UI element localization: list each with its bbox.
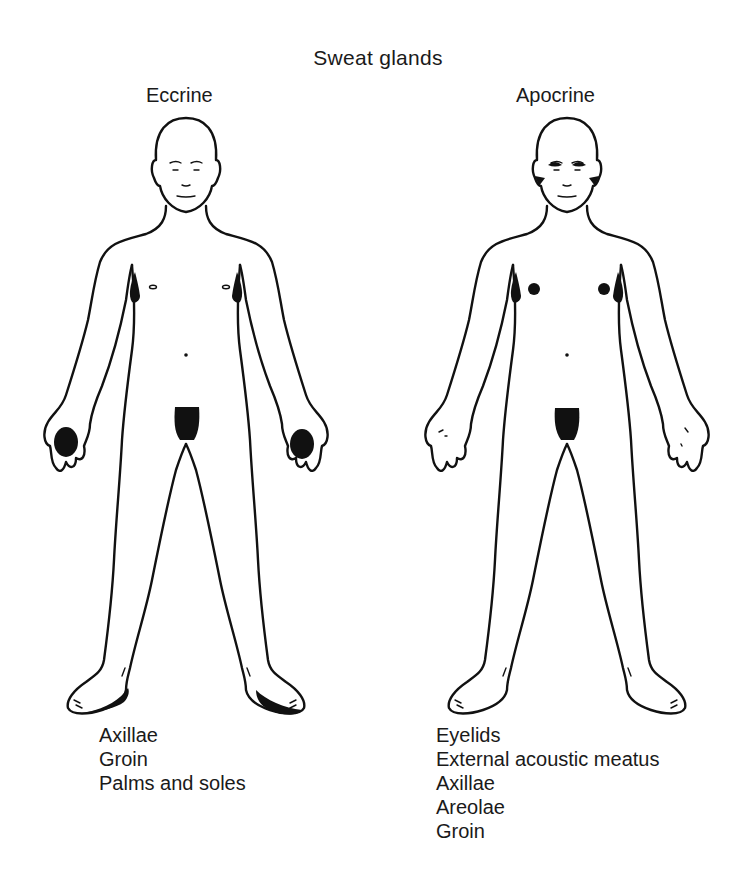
list-item: External acoustic meatus	[436, 747, 659, 771]
eccrine-locations-list: Axillae Groin Palms and soles	[99, 723, 246, 795]
apocrine-areola-left	[528, 283, 540, 295]
list-item: Areolae	[436, 795, 659, 819]
eccrine-sole-left	[88, 688, 129, 712]
list-item: Axillae	[99, 723, 246, 747]
list-item: Groin	[99, 747, 246, 771]
eccrine-figure	[44, 118, 327, 715]
eccrine-groin	[175, 407, 200, 440]
list-item: Eyelids	[436, 723, 659, 747]
apocrine-groin	[555, 408, 580, 440]
eccrine-axilla-left	[130, 272, 140, 303]
list-item: Groin	[436, 819, 659, 843]
eccrine-palm-right	[290, 429, 314, 459]
apocrine-figure	[425, 118, 708, 714]
list-item: Palms and soles	[99, 771, 246, 795]
apocrine-axilla-right	[613, 272, 623, 303]
eccrine-axilla-right	[232, 272, 242, 303]
apocrine-locations-list: Eyelids External acoustic meatus Axillae…	[436, 723, 659, 843]
eccrine-palm-left	[54, 427, 78, 457]
apocrine-axilla-left	[511, 272, 521, 303]
list-item: Axillae	[436, 771, 659, 795]
eccrine-sole-right	[256, 690, 302, 715]
apocrine-areola-right	[598, 283, 610, 295]
